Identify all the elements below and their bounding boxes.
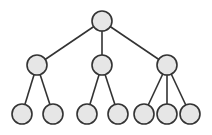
- tree-node-a1: [12, 104, 32, 124]
- tree-nodes: [12, 11, 200, 124]
- tree-node-c3: [180, 104, 200, 124]
- tree-node-b1: [77, 104, 97, 124]
- tree-edge-root-a: [37, 21, 102, 65]
- tree-edge-root-c: [102, 21, 167, 65]
- tree-diagram: [0, 0, 212, 135]
- tree-node-c1: [134, 104, 154, 124]
- tree-node-c2: [157, 104, 177, 124]
- tree-node-b: [92, 55, 112, 75]
- tree-node-b2: [108, 104, 128, 124]
- tree-node-c: [157, 55, 177, 75]
- tree-node-root: [92, 11, 112, 31]
- tree-node-a: [27, 55, 47, 75]
- tree-node-a2: [43, 104, 63, 124]
